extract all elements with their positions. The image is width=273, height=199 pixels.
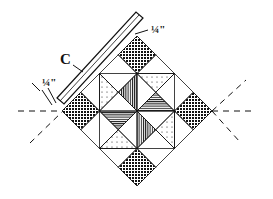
seam-top-label: ¼": [151, 23, 165, 35]
guide-right-up: [212, 80, 246, 111]
seam-left-label: ¼": [42, 76, 56, 88]
guide-left-diagonal: [30, 111, 63, 143]
seam-top-leader: [135, 30, 148, 34]
strip-label-leader: [73, 65, 83, 72]
strip-label: C: [60, 51, 71, 67]
quilt-block: [62, 36, 212, 186]
guide-right-down: [212, 111, 240, 142]
quilt-diagram: C ¼" ¼": [0, 0, 273, 199]
